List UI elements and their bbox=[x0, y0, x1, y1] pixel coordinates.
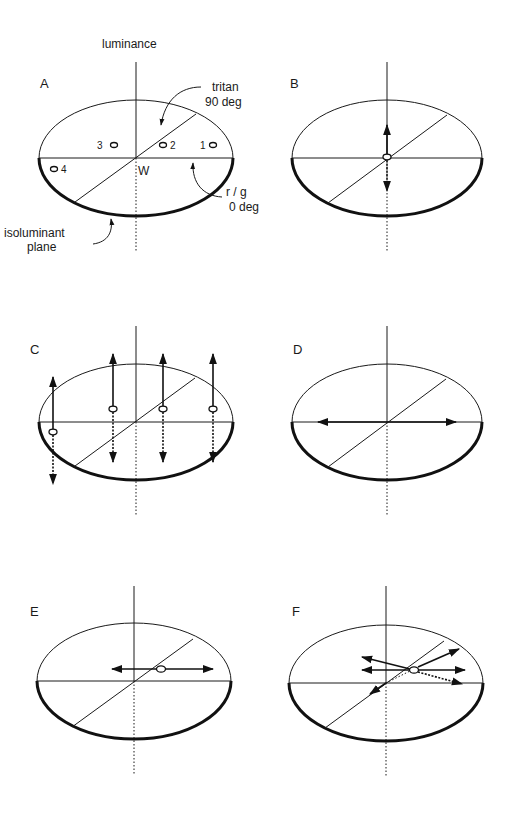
point-1-label: 1 bbox=[200, 140, 206, 151]
color-point-4 bbox=[51, 167, 58, 172]
panel-e: E bbox=[30, 586, 231, 775]
tritan-axis bbox=[72, 639, 193, 727]
panel-c: C bbox=[30, 326, 233, 515]
panel-e-label: E bbox=[30, 604, 39, 619]
adaptation-point bbox=[157, 666, 166, 672]
color-space-diagram: luminance A 1 2 3 4 W tritan 90 deg r / … bbox=[0, 0, 508, 817]
oblique-upper-right-arrow bbox=[418, 649, 459, 667]
panel-f-label: F bbox=[292, 604, 300, 619]
panel-a: luminance A 1 2 3 4 W tritan 90 deg r / … bbox=[4, 37, 259, 254]
rg-label: r / g bbox=[226, 185, 247, 199]
panel-a-label: A bbox=[40, 76, 49, 91]
panel-b: B bbox=[290, 62, 482, 252]
white-point-label: W bbox=[138, 164, 150, 178]
color-point-1 bbox=[210, 143, 217, 148]
panel-b-label: B bbox=[290, 76, 299, 91]
tritan-inward-arrow bbox=[370, 683, 386, 694]
color-point-3 bbox=[111, 143, 118, 148]
point-3-label: 3 bbox=[97, 140, 103, 151]
panel-d-label: D bbox=[293, 342, 302, 357]
panel-c-label: C bbox=[30, 342, 39, 357]
plane-pointer-arrow bbox=[93, 219, 111, 244]
isoluminant-label: isoluminant bbox=[4, 226, 65, 240]
rg-pointer-arrow bbox=[193, 163, 222, 197]
luminance-axis-label: luminance bbox=[102, 37, 157, 51]
point-4-label: 4 bbox=[61, 164, 67, 175]
plane-label: plane bbox=[27, 240, 57, 254]
color-point-3 bbox=[109, 406, 117, 412]
color-point-2 bbox=[160, 143, 167, 148]
panel-f: F bbox=[289, 586, 483, 777]
tritan-label: tritan bbox=[212, 80, 239, 94]
color-point-1 bbox=[209, 406, 217, 412]
vector-from-white-dotted bbox=[386, 671, 410, 683]
white-point bbox=[383, 154, 391, 160]
oblique-lower-right-arrow bbox=[418, 672, 462, 684]
color-point-2 bbox=[159, 406, 167, 412]
tritan-degree-label: 90 deg bbox=[205, 95, 242, 109]
point-2-label: 2 bbox=[170, 140, 176, 151]
adaptation-point bbox=[410, 667, 419, 673]
panel-d: D bbox=[292, 326, 482, 515]
rg-degree-label: 0 deg bbox=[229, 200, 259, 214]
color-point-4 bbox=[49, 429, 57, 435]
